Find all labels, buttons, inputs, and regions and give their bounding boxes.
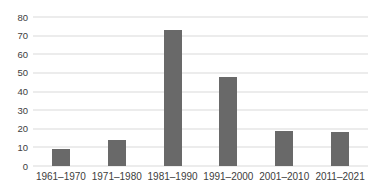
bar-slot xyxy=(200,17,256,166)
y-axis: 01020304050607080 xyxy=(0,17,28,166)
y-tick-label-60: 60 xyxy=(0,49,28,59)
bar-chart: 01020304050607080 1961–19701971–19801981… xyxy=(0,0,371,196)
y-tick-label-30: 30 xyxy=(0,105,28,115)
x-axis: 1961–19701971–19801981–19901991–20002001… xyxy=(33,171,368,183)
x-tick-label-2011–2021: 2011–2021 xyxy=(312,171,368,183)
bar-slot xyxy=(312,17,368,166)
bar-slot xyxy=(33,17,89,166)
bar-2011–2021 xyxy=(331,132,349,166)
x-tick-label-1981–1990: 1981–1990 xyxy=(145,171,201,183)
bar-1971–1980 xyxy=(108,140,126,166)
bar-slot xyxy=(256,17,312,166)
x-tick-label-1971–1980: 1971–1980 xyxy=(89,171,145,183)
bar-1991–2000 xyxy=(219,77,237,166)
y-tick-label-20: 20 xyxy=(0,124,28,134)
bar-2001–2010 xyxy=(275,131,293,166)
y-tick-label-40: 40 xyxy=(0,87,28,97)
y-tick-label-70: 70 xyxy=(0,31,28,41)
x-tick-label-2001–2010: 2001–2010 xyxy=(256,171,312,183)
y-tick-label-80: 80 xyxy=(0,12,28,22)
bar-1981–1990 xyxy=(164,30,182,166)
bar-series xyxy=(33,17,368,166)
x-tick-label-1991–2000: 1991–2000 xyxy=(200,171,256,183)
bar-1961–1970 xyxy=(52,149,70,166)
plot-area xyxy=(33,17,368,166)
bar-slot xyxy=(89,17,145,166)
x-tick-label-1961–1970: 1961–1970 xyxy=(33,171,89,183)
y-tick-label-50: 50 xyxy=(0,68,28,78)
bar-slot xyxy=(145,17,201,166)
y-tick-label-10: 10 xyxy=(0,142,28,152)
y-tick-label-0: 0 xyxy=(0,161,28,171)
